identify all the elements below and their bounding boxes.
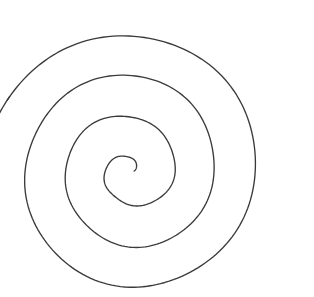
figure-background: [0, 0, 314, 297]
figure-canvas: [0, 0, 314, 297]
spiral-figure: [0, 0, 314, 297]
